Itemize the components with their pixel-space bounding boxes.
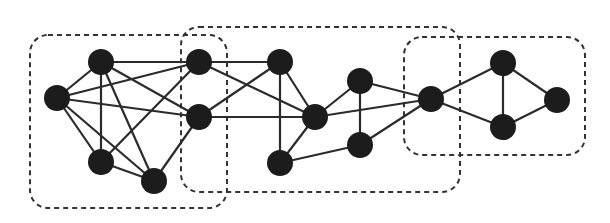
edge-F-G <box>199 62 280 117</box>
edge-A-F <box>57 98 199 117</box>
node-M <box>490 50 516 76</box>
node-D <box>141 168 167 194</box>
node-A <box>44 85 70 111</box>
node-L <box>418 86 444 112</box>
node-G <box>267 49 293 75</box>
node-C <box>88 149 114 175</box>
node-N <box>490 114 516 140</box>
edge-C-E <box>101 62 199 162</box>
node-H <box>302 104 328 130</box>
node-E <box>186 49 212 75</box>
node-O <box>544 87 570 113</box>
node-K <box>347 132 373 158</box>
edge-B-F <box>101 62 199 117</box>
node-I <box>267 150 293 176</box>
community-graph-diagram <box>0 0 610 223</box>
node-J <box>347 68 373 94</box>
node-F <box>186 104 212 130</box>
node-B <box>88 49 114 75</box>
